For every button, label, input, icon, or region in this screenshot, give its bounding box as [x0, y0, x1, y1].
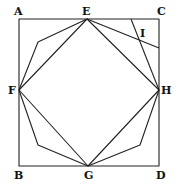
diagram: A E C I F H B G D: [0, 0, 184, 191]
label-D: D: [156, 170, 166, 181]
label-G: G: [84, 170, 93, 181]
label-E: E: [82, 6, 90, 17]
label-F: F: [8, 85, 16, 96]
geometry-figure: [0, 0, 184, 191]
label-C: C: [157, 6, 166, 17]
label-H: H: [161, 85, 171, 96]
line-E-to-right: [87, 19, 159, 48]
label-I: I: [140, 28, 145, 39]
label-A: A: [14, 6, 23, 17]
label-B: B: [14, 170, 23, 181]
